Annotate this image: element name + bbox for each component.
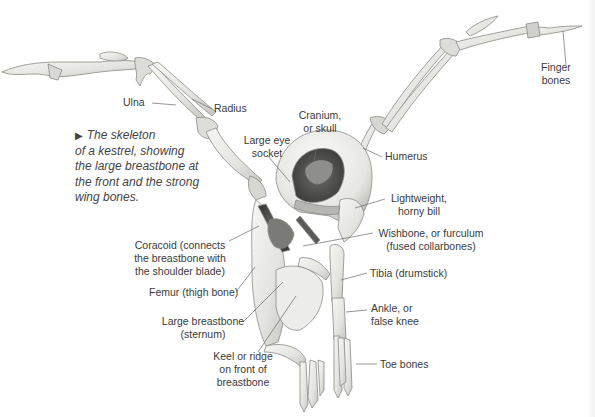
caption-text: The skeleton of a kestrel, showing the l…	[75, 128, 199, 204]
leader-finger-bones	[563, 31, 566, 65]
kestrel-skeleton-diagram: ▶The skeleton of a kestrel, showing the …	[0, 0, 595, 417]
label-toe-bones: Toe bones	[380, 358, 428, 371]
label-femur: Femur (thigh bone)	[149, 286, 238, 299]
label-eye-socket: Large eye socket	[236, 134, 298, 160]
torso	[252, 200, 330, 366]
label-cranium: Cranium, or skull	[290, 109, 350, 135]
label-wishbone: Wishbone, or furculum (fused collarbones…	[374, 227, 488, 253]
leader-ulna	[152, 103, 176, 105]
caption-arrow-icon: ▶	[75, 130, 83, 141]
figure-caption: ▶The skeleton of a kestrel, showing the …	[75, 128, 215, 206]
label-coracoid: Coracoid (connects the breastbone with t…	[132, 239, 228, 278]
label-tibia: Tibia (drumstick)	[370, 267, 447, 280]
label-radius: Radius	[214, 102, 247, 115]
label-keel: Keel or ridge on front of breastbone	[208, 350, 278, 389]
label-humerus: Humerus	[385, 150, 428, 163]
label-ulna: Ulna	[123, 96, 145, 109]
label-bill: Lightweight, horny bill	[384, 192, 454, 218]
label-finger-bones: Finger bones	[528, 61, 584, 87]
label-ankle: Ankle, or false knee	[371, 302, 419, 328]
label-breastbone: Large breastbone (sternum)	[160, 315, 246, 341]
leader-ankle	[346, 310, 367, 312]
leader-tibia	[341, 273, 367, 280]
skeleton-illustration	[0, 0, 595, 417]
